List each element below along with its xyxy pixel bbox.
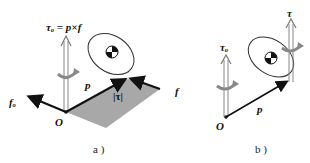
- torque-vector-tau-o: [61, 36, 71, 112]
- vector-f-o: [30, 97, 66, 112]
- torque-vector-tau-o-b: [221, 55, 231, 117]
- label-f-o: fₒ: [9, 97, 16, 108]
- label-tau-o-equation: τₒ = p×f: [46, 22, 81, 33]
- caption-b: b ): [255, 144, 267, 155]
- label-tau-magnitude: |τ|: [113, 91, 123, 102]
- origin-point: [64, 110, 68, 114]
- caption-a: a ): [93, 144, 104, 155]
- label-p-b: p: [257, 104, 263, 115]
- label-p: p: [85, 80, 91, 91]
- label-tau-o-b: τₒ: [220, 42, 228, 53]
- label-origin-b: O: [216, 121, 224, 132]
- label-origin-a: O: [55, 117, 63, 128]
- panel-a: [30, 25, 160, 128]
- origin-point-b: [224, 115, 228, 119]
- label-tau-b: τ: [287, 8, 292, 19]
- center-of-mass-icon-b: [265, 52, 277, 64]
- vector-p-b: [226, 82, 286, 117]
- label-f: f: [175, 86, 179, 97]
- center-of-mass-icon: [106, 46, 118, 58]
